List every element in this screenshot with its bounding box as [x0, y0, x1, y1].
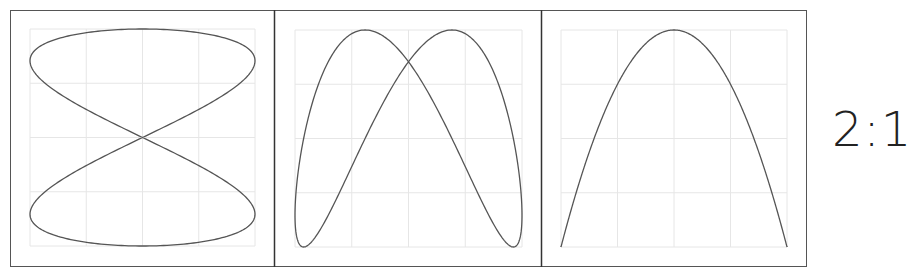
panel-parabola	[561, 30, 787, 247]
frequency-ratio-label: 2:1	[832, 101, 911, 157]
panel-figure-eight	[30, 29, 255, 246]
panel-double-arch	[295, 30, 522, 247]
